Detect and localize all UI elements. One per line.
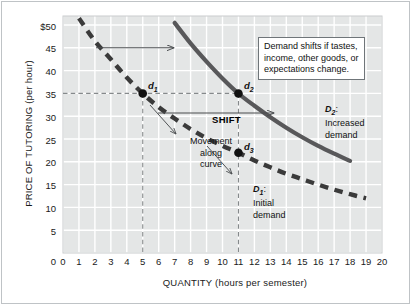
d2-colon: : xyxy=(335,104,338,114)
point-d1 xyxy=(138,89,147,98)
d1-colon: : xyxy=(263,184,266,194)
y-axis-title: PRICE OF TUTORING (per hour) xyxy=(23,49,34,219)
curve-label-d1: D1: Initial demand xyxy=(253,184,286,221)
callout-line-1: Demand shifts if tastes, xyxy=(264,41,359,53)
x-tick-20: 20 xyxy=(373,256,391,267)
curve-label-d2-line-2: demand xyxy=(325,130,365,142)
curve-label-d2-name: D2: xyxy=(325,104,365,118)
point-label-d3: d3 xyxy=(244,141,254,154)
movement-line-1: Movement xyxy=(178,136,244,148)
y-tick-50: $50 xyxy=(22,21,56,32)
movement-line-2: along xyxy=(178,148,244,160)
curve-label-d1-line-1: Initial xyxy=(253,198,286,210)
point-label-d2: d2 xyxy=(244,80,254,93)
point-label-d1: d1 xyxy=(148,80,158,93)
callout-textbox: Demand shifts if tastes, income, other g… xyxy=(258,37,365,80)
point-d2 xyxy=(234,89,243,98)
demand-curve-figure: $50 45 40 35 30 25 20 15 10 5 0 0 1 2 3 … xyxy=(0,0,411,305)
curve-label-d1-line-2: demand xyxy=(253,210,286,222)
point-label-d3-subscript: 3 xyxy=(250,147,254,154)
callout-line-2: income, other goods, or xyxy=(264,53,359,65)
y-tick-0: 0 xyxy=(22,256,56,267)
movement-line-3: curve xyxy=(178,159,244,171)
curve-label-d2-line-1: Increased xyxy=(325,118,365,130)
curve-label-d1-name: D1: xyxy=(253,184,286,198)
callout-line-3: expectations change. xyxy=(264,64,359,76)
curve-label-d2: D2: Increased demand xyxy=(325,104,365,141)
x-axis-title: QUANTITY (hours per semester) xyxy=(115,277,355,288)
movement-annotation: Movement along curve xyxy=(178,136,244,171)
point-label-d2-subscript: 2 xyxy=(250,86,254,93)
point-label-d1-subscript: 1 xyxy=(154,86,158,93)
y-tick-5: 5 xyxy=(22,226,56,237)
shift-label: SHIFT xyxy=(212,114,241,125)
